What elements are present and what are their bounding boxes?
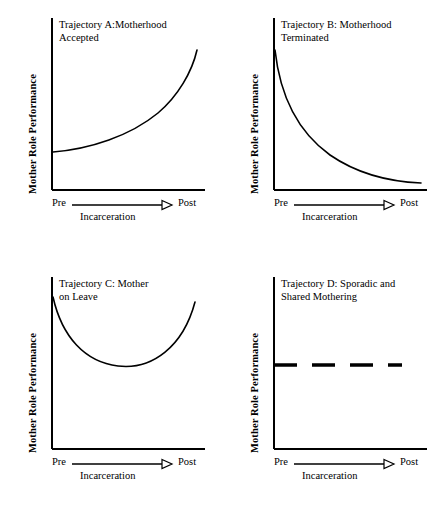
panel-b-title: Trajectory B: Motherhood Terminated xyxy=(281,19,436,44)
x-axis-arrow-c xyxy=(72,460,172,469)
x-axis-end-label: Post xyxy=(178,197,196,208)
trajectory-figure-grid: Mother Role Performance Trajectory A:Mot… xyxy=(0,0,444,515)
trajectory-a-curve xyxy=(53,50,197,152)
panel-d-title: Trajectory D: Sporadic and Shared Mother… xyxy=(281,278,439,303)
x-axis-arrow-a xyxy=(72,201,172,210)
trajectory-b-curve xyxy=(275,50,421,183)
panel-trajectory-a: Mother Role Performance Trajectory A:Mot… xyxy=(0,0,222,257)
x-axis-start-label: Pre xyxy=(52,197,66,208)
panel-trajectory-c: Mother Role Performance Trajectory C: Mo… xyxy=(0,257,222,514)
panel-trajectory-b: Mother Role Performance Trajectory B: Mo… xyxy=(222,0,444,257)
x-axis-arrow-d xyxy=(294,460,394,469)
x-axis-start-label: Pre xyxy=(52,456,66,467)
panel-a-title: Trajectory A:Motherhood Accepted xyxy=(59,19,211,44)
x-axis-caption: Incarceration xyxy=(302,470,357,481)
x-axis-caption: Incarceration xyxy=(80,470,135,481)
x-axis-end-label: Post xyxy=(400,456,418,467)
x-axis-start-label: Pre xyxy=(274,197,288,208)
x-axis-arrow-b xyxy=(294,201,394,210)
x-axis-start-label: Pre xyxy=(274,456,288,467)
panel-trajectory-d: Mother Role Performance Trajectory D: Sp… xyxy=(222,257,444,514)
trajectory-c-curve xyxy=(53,297,195,366)
x-axis-caption: Incarceration xyxy=(302,211,357,222)
x-axis-caption: Incarceration xyxy=(80,211,135,222)
panel-c-title: Trajectory C: Mother on Leave xyxy=(59,278,209,303)
x-axis-end-label: Post xyxy=(178,456,196,467)
x-axis-end-label: Post xyxy=(400,197,418,208)
